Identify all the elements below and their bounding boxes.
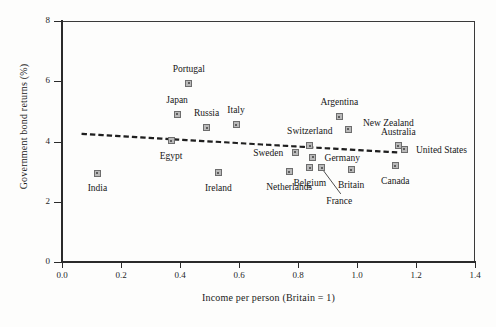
data-label-switzerland: Switzerland xyxy=(287,126,332,136)
data-label-argentina: Argentina xyxy=(320,97,358,107)
data-point-belgium[interactable] xyxy=(306,164,313,171)
data-label-portugal: Portugal xyxy=(173,64,205,74)
x-tick-1.0 xyxy=(357,262,358,268)
data-point-india[interactable] xyxy=(94,170,101,177)
x-tick-0.2 xyxy=(121,262,122,268)
x-tick-0.8 xyxy=(298,262,299,268)
data-point-portugal[interactable] xyxy=(185,80,192,87)
data-label-sweden: Sweden xyxy=(253,148,283,158)
y-tick-label-6: 6 xyxy=(28,76,50,85)
x-axis-line xyxy=(61,261,476,263)
data-label-russia: Russia xyxy=(194,108,219,118)
chart-figure: 02468 0.00.20.40.60.81.01.21.4 Governmen… xyxy=(0,0,496,327)
data-label-italy: Italy xyxy=(227,105,244,115)
x-tick-label-1.0: 1.0 xyxy=(337,271,377,280)
data-point-netherlands[interactable] xyxy=(286,168,293,175)
data-point-germany[interactable] xyxy=(309,154,316,161)
data-point-france[interactable] xyxy=(318,164,325,171)
data-point-egypt[interactable] xyxy=(168,137,175,144)
x-tick-label-0.8: 0.8 xyxy=(278,271,318,280)
data-point-ireland[interactable] xyxy=(215,169,222,176)
data-label-france: France xyxy=(326,196,352,206)
x-tick-label-0.4: 0.4 xyxy=(160,271,200,280)
y-tick-0 xyxy=(54,262,62,263)
x-tick-label-0.0: 0.0 xyxy=(42,271,82,280)
data-point-canada[interactable] xyxy=(392,162,399,169)
data-point-russia[interactable] xyxy=(203,124,210,131)
data-label-canada: Canada xyxy=(381,176,410,186)
x-tick-label-1.4: 1.4 xyxy=(455,271,495,280)
x-axis-title: Income per person (Britain = 1) xyxy=(62,292,475,303)
data-label-india: India xyxy=(88,183,108,193)
y-tick-label-2: 2 xyxy=(28,197,50,206)
data-point-new-zealand[interactable] xyxy=(345,126,352,133)
x-tick-label-0.6: 0.6 xyxy=(219,271,259,280)
x-tick-0.6 xyxy=(239,262,240,268)
data-label-belgium: Belgium xyxy=(293,178,326,188)
x-tick-1.4 xyxy=(475,262,476,268)
data-label-japan: Japan xyxy=(166,95,188,105)
data-point-switzerland[interactable] xyxy=(306,142,313,149)
x-tick-label-0.2: 0.2 xyxy=(101,271,141,280)
x-tick-label-1.2: 1.2 xyxy=(396,271,436,280)
y-tick-2 xyxy=(54,202,62,203)
y-tick-6 xyxy=(54,81,62,82)
y-tick-label-4: 4 xyxy=(28,137,50,146)
plot-area xyxy=(62,21,475,262)
x-tick-0.4 xyxy=(180,262,181,268)
data-point-japan[interactable] xyxy=(174,111,181,118)
data-label-united-states: United States xyxy=(416,145,467,155)
y-axis-title: Government bond returns (%) xyxy=(18,22,29,232)
data-label-germany: Germany xyxy=(325,153,360,163)
x-tick-0.0 xyxy=(62,262,63,268)
data-label-egypt: Egypt xyxy=(160,151,183,161)
data-label-ireland: Ireland xyxy=(205,183,232,193)
data-point-argentina[interactable] xyxy=(336,113,343,120)
data-point-italy[interactable] xyxy=(233,121,240,128)
data-point-united-states[interactable] xyxy=(401,146,408,153)
x-tick-1.2 xyxy=(416,262,417,268)
y-tick-4 xyxy=(54,142,62,143)
data-point-britain[interactable] xyxy=(348,166,355,173)
y-tick-label-0: 0 xyxy=(28,257,50,266)
y-tick-8 xyxy=(54,21,62,22)
data-label-australia: Australia xyxy=(381,127,416,137)
data-point-sweden[interactable] xyxy=(292,149,299,156)
y-tick-label-8: 8 xyxy=(28,16,50,25)
data-label-britain: Britain xyxy=(338,180,364,190)
